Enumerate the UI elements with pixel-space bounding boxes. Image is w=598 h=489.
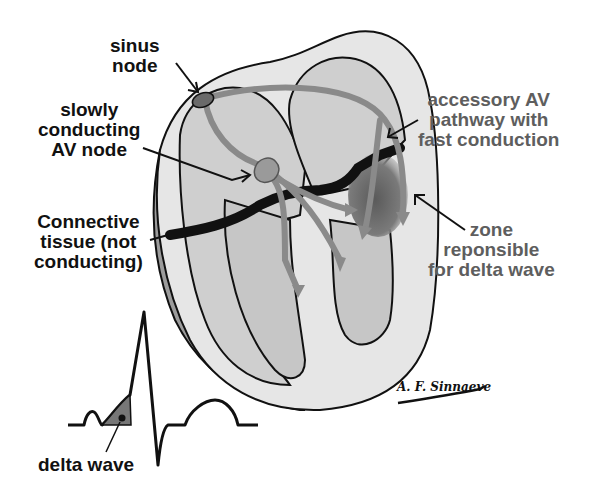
signature: A. F. Sinnaeve (397, 380, 491, 394)
label-accessory-pathway: accessory AV pathway with fast conductio… (418, 90, 559, 150)
av-node (254, 158, 278, 182)
label-sinus-node: sinus node (110, 36, 160, 76)
delta-wave-pointer (106, 422, 120, 452)
label-av-node: slowly conducting AV node (38, 100, 140, 160)
label-delta-zone: zone reponsible for delta wave (428, 220, 555, 280)
label-connective-tissue: Connective tissue (not conducting) (34, 212, 143, 272)
delta-wave-dot (119, 415, 126, 422)
delta-wave-shading (102, 395, 131, 425)
label-delta-wave: delta wave (38, 455, 134, 475)
